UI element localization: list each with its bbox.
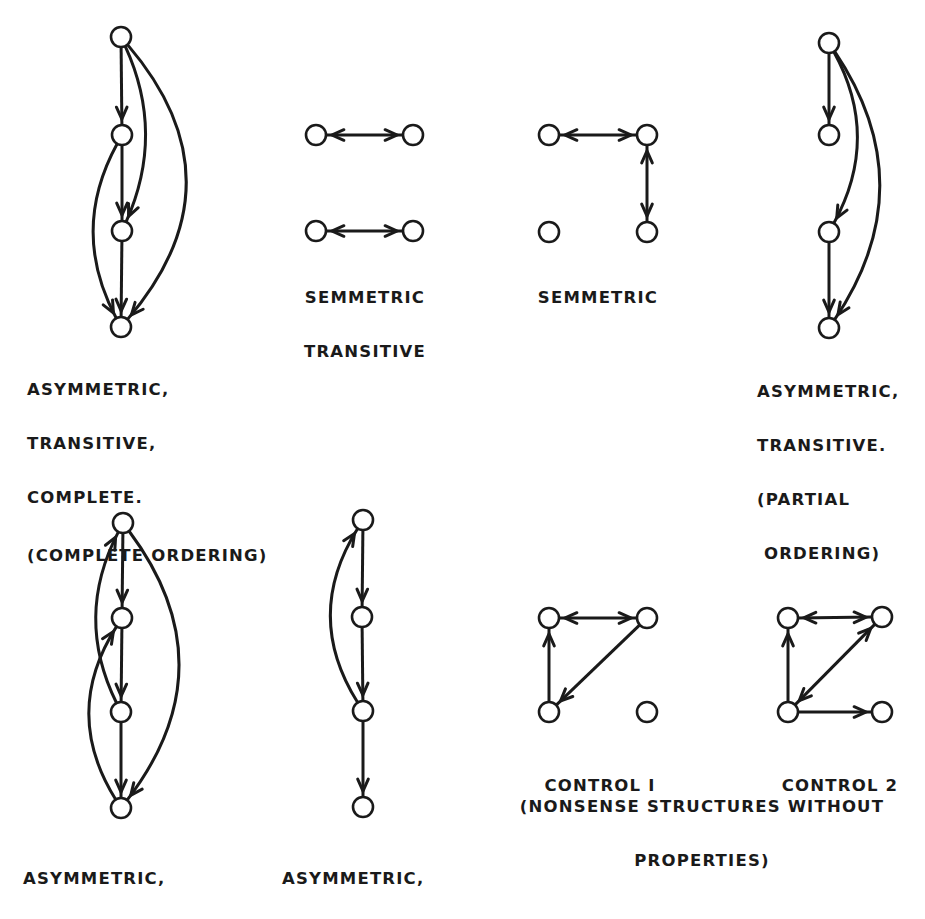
- label-line: ORDERING): [757, 545, 899, 563]
- node-circle: [353, 510, 373, 530]
- node-circle: [637, 125, 657, 145]
- label-line: ASYMMETRIC,: [20, 870, 290, 888]
- edge: [795, 624, 875, 705]
- label-line: SEMMETRIC: [528, 289, 668, 307]
- label-line: (NONSENSE STRUCTURES WITHOUT: [486, 798, 918, 816]
- label-line: COMPLETE.: [27, 489, 267, 507]
- label-controls-caption: (NONSENSE STRUCTURES WITHOUT PROPERTIES): [486, 762, 918, 888]
- label-line: TRANSITIVE: [294, 343, 436, 361]
- label-line: TRANSITIVE.: [757, 437, 899, 455]
- node-circle: [111, 798, 131, 818]
- label-symmetric-transitive: SEMMETRIC TRANSITIVE: [294, 253, 436, 379]
- node-circle: [872, 702, 892, 722]
- label-dominance-structure: ASYMMETRIC, COMPLETE. (DOMINANCE STRUCTU…: [20, 834, 290, 919]
- node-circle: [306, 125, 326, 145]
- node-circle: [819, 33, 839, 53]
- node-circle: [872, 607, 892, 627]
- node-circle: [112, 608, 132, 628]
- graph-complete-ordering: [93, 27, 186, 337]
- label-line: (PARTIAL: [757, 491, 899, 509]
- node-circle: [352, 607, 372, 627]
- label-line: ASYMMETRIC,: [282, 870, 424, 888]
- node-circle: [539, 702, 559, 722]
- label-symmetric: SEMMETRIC: [528, 253, 668, 325]
- node-circle: [353, 797, 373, 817]
- label-complete-ordering: ASYMMETRIC, TRANSITIVE, COMPLETE. (COMPL…: [27, 345, 267, 583]
- node-circle: [306, 221, 326, 241]
- node-circle: [112, 221, 132, 241]
- edge: [362, 627, 363, 701]
- label-line: ASYMMETRIC,: [27, 381, 267, 399]
- node-circle: [637, 608, 657, 628]
- graph-symmetric-transitive: [306, 125, 423, 241]
- edge: [362, 530, 363, 607]
- edge: [798, 617, 872, 618]
- edge: [121, 47, 122, 125]
- label-partial-ordering: ASYMMETRIC, TRANSITIVE. (PARTIAL ORDERIN…: [757, 347, 899, 581]
- edge-curved: [835, 51, 880, 319]
- edge: [121, 628, 122, 702]
- node-circle: [111, 317, 131, 337]
- label-asymmetric: ASYMMETRIC,: [282, 834, 424, 906]
- node-circle: [637, 702, 657, 722]
- node-circle: [111, 702, 131, 722]
- node-circle: [819, 318, 839, 338]
- node-circle: [353, 701, 373, 721]
- node-circle: [403, 221, 423, 241]
- node-circle: [778, 608, 798, 628]
- node-circle: [819, 125, 839, 145]
- graph-partial-ordering: [819, 33, 880, 338]
- label-line: TRANSITIVE,: [27, 435, 267, 453]
- node-circle: [111, 27, 131, 47]
- label-line: SEMMETRIC: [294, 289, 436, 307]
- label-line: ASYMMETRIC,: [757, 383, 899, 401]
- edge: [556, 625, 640, 705]
- graph-symmetric: [539, 125, 657, 242]
- node-circle: [539, 125, 559, 145]
- edge-curved: [127, 45, 186, 320]
- label-line: PROPERTIES): [486, 852, 918, 870]
- node-circle: [819, 222, 839, 242]
- node-circle: [112, 125, 132, 145]
- node-circle: [403, 125, 423, 145]
- edge: [121, 241, 122, 317]
- node-circle: [778, 702, 798, 722]
- node-circle: [637, 222, 657, 242]
- node-circle: [539, 608, 559, 628]
- node-circle: [539, 222, 559, 242]
- graph-asymmetric: [330, 510, 373, 817]
- graph-control-2: [778, 607, 892, 722]
- graph-control-1: [539, 608, 657, 722]
- label-line: (COMPLETE ORDERING): [27, 547, 267, 565]
